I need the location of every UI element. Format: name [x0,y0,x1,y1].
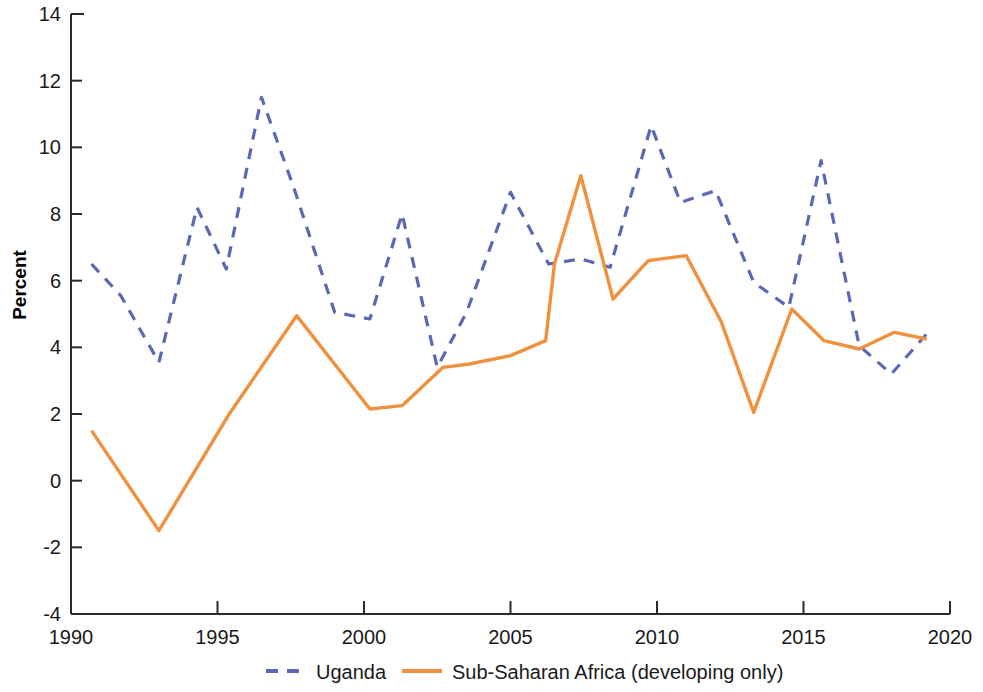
legend-label: Sub-Saharan Africa (developing only) [452,661,783,683]
y-tick-label: 14 [39,3,61,25]
y-tick-label: 10 [39,136,61,158]
line-chart-canvas: Percent 14121086420-2-4 1990199520002005… [0,0,983,692]
legend-item[interactable]: Sub-Saharan Africa (developing only) [402,661,783,683]
series-group [92,97,927,530]
y-tick-label: -2 [43,536,61,558]
chart-legend: UgandaSub-Saharan Africa (developing onl… [266,661,783,683]
x-tick-label: 2010 [635,626,680,648]
series-line-uganda [92,97,927,374]
y-tick-label: 2 [50,403,61,425]
legend-label: Uganda [316,661,387,683]
x-tick-label: 1990 [49,626,94,648]
legend-item[interactable]: Uganda [266,661,387,683]
axes-group [71,14,950,614]
y-axis-label-text: Percent [9,249,30,319]
x-tick-label: 2020 [928,626,973,648]
x-tick-group: 1990199520002005201020152020 [49,601,973,648]
y-tick-label: 8 [50,203,61,225]
y-tick-label: 12 [39,70,61,92]
y-tick-label: 4 [50,336,61,358]
series-line-sub-saharan-africa-developing-only [92,176,927,531]
x-tick-label: 1995 [195,626,240,648]
y-tick-label: 0 [50,470,61,492]
chart-figure: Percent 14121086420-2-4 1990199520002005… [0,0,983,692]
y-tick-group: 14121086420-2-4 [39,3,82,625]
x-tick-label: 2015 [781,626,826,648]
y-tick-label: 6 [50,270,61,292]
x-tick-label: 2000 [342,626,387,648]
x-tick-label: 2005 [488,626,533,648]
y-axis-label: Percent [9,249,30,319]
y-tick-label: -4 [43,603,61,625]
